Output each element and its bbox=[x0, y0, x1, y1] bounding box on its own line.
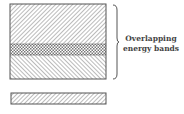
energy-band-diagram bbox=[0, 0, 184, 114]
lower-band bbox=[10, 55, 106, 79]
upper-band bbox=[10, 4, 106, 44]
separate-band bbox=[11, 93, 106, 104]
label-line-1: Overlapping bbox=[118, 34, 184, 44]
overlap-region bbox=[10, 44, 106, 55]
label-line-2: energy bands bbox=[118, 44, 184, 54]
overlapping-energy-bands-label: Overlapping energy bands bbox=[118, 34, 184, 54]
